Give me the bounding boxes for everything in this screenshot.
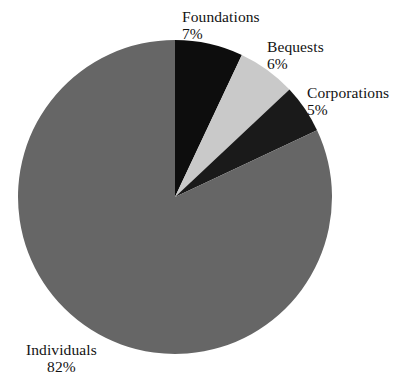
pie-label-foundations-name: Foundations [182, 8, 260, 25]
pie-label-individuals-value: 82% [26, 358, 97, 375]
pie-label-individuals-name: Individuals [26, 341, 97, 358]
pie-chart-svg [0, 0, 419, 387]
pie-label-corporations: Corporations 5% [307, 84, 389, 119]
pie-label-corporations-name: Corporations [307, 84, 389, 101]
pie-label-foundations: Foundations 7% [182, 8, 260, 43]
pie-label-bequests-value: 6% [267, 55, 324, 72]
pie-label-corporations-value: 5% [307, 101, 389, 118]
pie-chart: Foundations 7% Bequests 6% Corporations … [0, 0, 419, 387]
pie-label-individuals: Individuals 82% [26, 341, 97, 376]
pie-slice-group [18, 40, 332, 354]
pie-label-foundations-value: 7% [182, 25, 260, 42]
pie-label-bequests: Bequests 6% [267, 38, 324, 73]
pie-label-bequests-name: Bequests [267, 38, 324, 55]
